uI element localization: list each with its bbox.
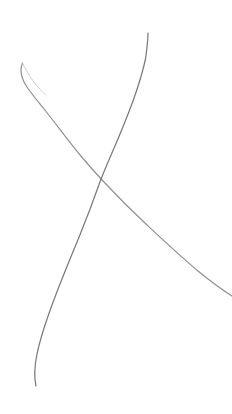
sketch-canvas[interactable] xyxy=(0,0,232,414)
sketch-surface[interactable] xyxy=(0,0,232,414)
canvas-background xyxy=(0,0,232,414)
